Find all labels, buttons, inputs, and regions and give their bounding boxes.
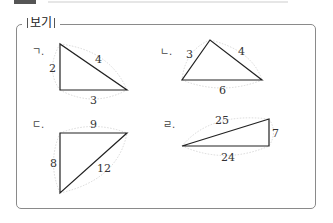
side-length: 4 (95, 54, 102, 65)
side-length: 8 (50, 158, 57, 169)
item-label-a: ㄱ. (32, 43, 44, 58)
side-length: 2 (49, 63, 56, 74)
triangles-figure (0, 0, 333, 223)
item-label-d: ㄹ. (163, 116, 175, 131)
item-label-c: ㄷ. (32, 116, 44, 131)
side-length: 4 (238, 46, 245, 57)
side-length: 6 (219, 85, 226, 96)
side-length: 24 (221, 152, 235, 163)
item-label-b: ㄴ. (160, 43, 172, 58)
triangle-a (53, 44, 128, 99)
side-length: 7 (272, 128, 279, 139)
side-length: 25 (215, 115, 229, 126)
triangle-c (54, 127, 128, 194)
side-length: 3 (90, 95, 97, 106)
side-length: 12 (97, 163, 111, 174)
side-length: 3 (186, 49, 193, 60)
side-length: 9 (90, 119, 97, 130)
triangle-b (182, 40, 262, 88)
